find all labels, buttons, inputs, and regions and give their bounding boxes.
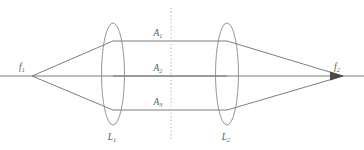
- label-a2: A2: [153, 63, 164, 74]
- ray-f1-to-lens1-lower: [32, 76, 113, 110]
- label-l1: L1: [107, 132, 116, 143]
- label-f1: f1: [19, 62, 25, 73]
- ray-lens2-to-f2-upper: [227, 41, 343, 76]
- ray-f1-to-lens1-upper: [32, 41, 113, 76]
- label-l2: L2: [221, 132, 231, 143]
- label-f2: f2: [334, 62, 341, 73]
- label-a1: A1: [153, 28, 163, 39]
- optics-diagram: f1 f2 A1 A2 A3 L1 L2: [0, 0, 364, 150]
- label-a3: A3: [153, 97, 163, 108]
- ray-lens2-to-f2-lower: [227, 76, 343, 110]
